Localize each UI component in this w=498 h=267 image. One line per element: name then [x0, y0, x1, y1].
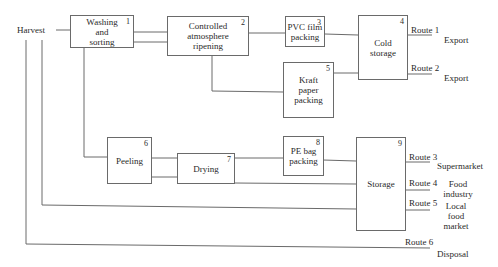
- process-number: 2: [241, 19, 245, 27]
- process-number: 5: [326, 65, 330, 73]
- process-number: 4: [400, 18, 404, 26]
- process-number: 1: [126, 18, 130, 26]
- route-5-destination: Local food market: [438, 201, 474, 231]
- process-label: PE bag packing: [289, 146, 318, 166]
- process-pvc-film-packing: PVC film packing 3: [285, 16, 325, 47]
- process-number: 3: [317, 19, 321, 27]
- process-drying: Drying 7: [177, 153, 235, 184]
- route-6-label: Route 6: [405, 237, 433, 247]
- route-4-label: Route 4: [409, 178, 437, 188]
- process-washing-sorting: Washing and sorting 1: [70, 15, 134, 48]
- process-controlled-atmosphere-ripening: Controlled atmosphere ripening 2: [167, 16, 249, 56]
- route-5-label: Route 5: [409, 198, 437, 208]
- route-4-destination: Food industry: [440, 179, 476, 199]
- process-storage: Storage 9: [356, 137, 406, 231]
- process-cold-storage: Cold storage 4: [358, 15, 408, 80]
- process-label: Controlled atmosphere ripening: [187, 21, 228, 51]
- process-number: 9: [398, 140, 402, 148]
- route-6-destination: Disposal: [437, 249, 469, 259]
- process-kraft-paper-packing: Kraft paper packing 5: [283, 62, 334, 118]
- process-pe-bag-packing: PE bag packing 8: [283, 136, 324, 176]
- process-label: Kraft paper packing: [294, 75, 323, 105]
- route-1-label: Route 1: [411, 25, 439, 35]
- process-label: Drying: [193, 164, 219, 174]
- process-label: Cold storage: [370, 38, 396, 58]
- process-number: 8: [316, 139, 320, 147]
- route-2-destination: Export: [444, 73, 469, 83]
- route-1-destination: Export: [444, 35, 469, 45]
- process-peeling: Peeling 6: [107, 137, 152, 184]
- process-label: Peeling: [116, 156, 143, 166]
- process-label: Storage: [367, 179, 395, 189]
- route-3-label: Route 3: [409, 152, 437, 162]
- route-2-label: Route 2: [411, 63, 439, 73]
- process-number: 7: [227, 156, 231, 164]
- route-3-destination: Supermarket: [437, 161, 483, 171]
- harvest-label: Harvest: [17, 25, 45, 35]
- process-label: Washing and sorting: [86, 17, 117, 47]
- process-number: 6: [144, 140, 148, 148]
